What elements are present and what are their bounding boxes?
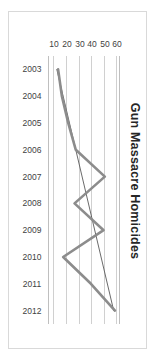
category-axis-label: 2005 — [23, 118, 42, 128]
rotated-chart-body: Gun Massacre Homicides 605040302010 2003… — [9, 12, 146, 350]
category-axis-label: 2006 — [23, 145, 42, 155]
plot-region: 605040302010 200320042005200620072008200… — [48, 56, 120, 324]
value-axis-label: 20 — [62, 39, 71, 49]
category-axis-label: 2003 — [23, 64, 42, 74]
chart-screenshot: Gun Massacre Homicides 605040302010 2003… — [0, 0, 156, 359]
category-axis-label: 2004 — [23, 91, 42, 101]
category-axis-label: 2011 — [23, 279, 41, 289]
category-axis-label: 2007 — [23, 172, 42, 182]
value-axis-label: 30 — [75, 39, 84, 49]
value-axis-label: 40 — [87, 39, 96, 49]
value-axis-label: 50 — [100, 39, 109, 49]
value-axis-label: 10 — [50, 39, 59, 49]
data-series-path — [58, 69, 115, 310]
series-layer — [48, 56, 120, 324]
category-axis-label: 2010 — [23, 252, 42, 262]
category-axis-label: 2009 — [23, 225, 42, 235]
category-axis-label: 2008 — [23, 198, 42, 208]
chart-frame: Gun Massacre Homicides 605040302010 2003… — [8, 11, 147, 349]
category-axis-label: 2012 — [23, 306, 42, 316]
value-axis-label: 60 — [113, 39, 122, 49]
chart-title: Gun Massacre Homicides — [128, 12, 142, 350]
